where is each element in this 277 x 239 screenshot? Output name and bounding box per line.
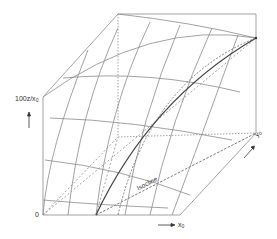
origin-label: 0 bbox=[35, 211, 39, 218]
surface-col-5 bbox=[150, 28, 212, 215]
surface-row-5 bbox=[43, 200, 168, 208]
vertical-axis-subscript: 0 bbox=[36, 97, 39, 103]
surface-row-4 bbox=[45, 160, 190, 195]
surface-col-4 bbox=[125, 25, 180, 215]
y-arrowhead-icon bbox=[251, 146, 255, 150]
surface-row-3 bbox=[50, 118, 232, 140]
surface-diagram bbox=[0, 0, 277, 239]
left-top-edge bbox=[43, 14, 118, 97]
right-bottom-edge bbox=[180, 133, 256, 215]
surface-row-0 bbox=[118, 14, 256, 38]
vertical-arrowhead-icon bbox=[28, 112, 31, 116]
surface-col-1 bbox=[43, 50, 88, 215]
x-axis-label: x0 bbox=[178, 221, 184, 229]
surface-row-2 bbox=[63, 76, 240, 92]
x-axis-subscript: 0 bbox=[182, 223, 185, 229]
y-axis-arrow bbox=[244, 148, 253, 158]
curve-endpoint bbox=[255, 37, 257, 39]
surface-row-1 bbox=[43, 35, 256, 97]
vertical-axis-label: 100z/x0 bbox=[15, 95, 38, 103]
isocline-line bbox=[96, 133, 256, 215]
vertical-axis-text: 100z/x bbox=[15, 95, 36, 102]
x-arrowhead-icon bbox=[171, 224, 175, 227]
main-curve bbox=[96, 38, 256, 215]
